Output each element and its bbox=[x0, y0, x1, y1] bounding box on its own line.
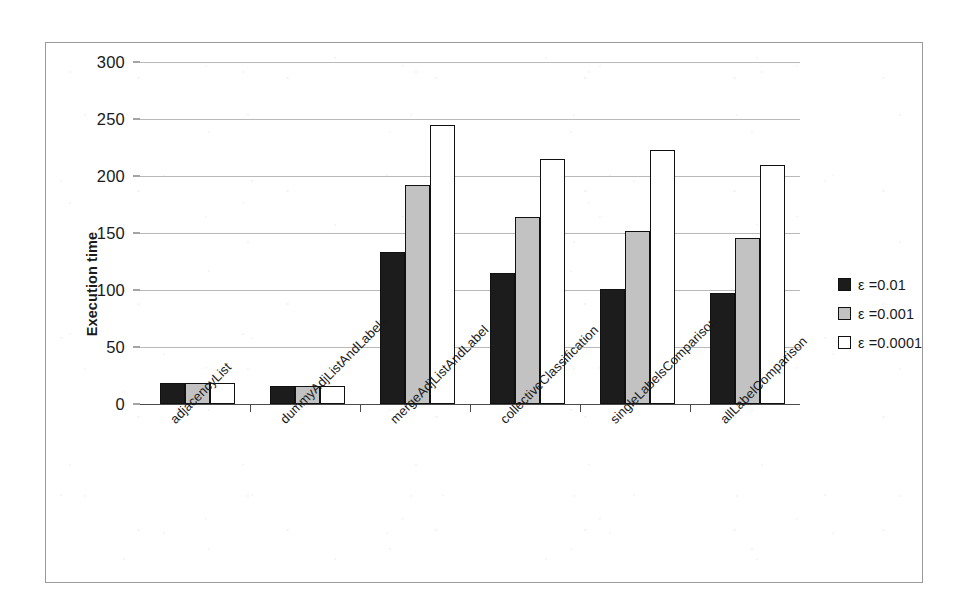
bar[interactable] bbox=[600, 289, 625, 404]
y-axis-tick-label: 300 bbox=[30, 54, 125, 71]
x-axis-tick-mark bbox=[360, 404, 361, 412]
x-axis-tick-mark bbox=[250, 404, 251, 412]
bar-group bbox=[380, 62, 455, 404]
bar[interactable] bbox=[405, 185, 430, 404]
x-axis-line bbox=[140, 404, 800, 405]
bar-group bbox=[270, 62, 345, 404]
gridline bbox=[140, 176, 800, 177]
x-axis-tick-mark bbox=[470, 404, 471, 412]
legend-item[interactable]: ε =0.0001 bbox=[838, 328, 958, 357]
legend-label: ε =0.001 bbox=[858, 306, 914, 322]
legend-swatch-icon bbox=[838, 278, 851, 291]
y-axis-tick-label: 100 bbox=[30, 282, 125, 299]
x-axis-tick-mark bbox=[690, 404, 691, 412]
y-axis-tick-mark bbox=[133, 176, 140, 177]
bar-group bbox=[600, 62, 675, 404]
y-axis-tick-label: 200 bbox=[30, 168, 125, 185]
y-axis-tick-mark bbox=[133, 62, 140, 63]
legend-item[interactable]: ε =0.001 bbox=[838, 299, 958, 328]
legend-swatch-icon bbox=[838, 336, 851, 349]
bar-group bbox=[160, 62, 235, 404]
gridline bbox=[140, 119, 800, 120]
y-axis-tick-mark bbox=[133, 290, 140, 291]
gridline bbox=[140, 233, 800, 234]
y-axis-tick-label: 50 bbox=[30, 339, 125, 356]
bar[interactable] bbox=[710, 293, 735, 404]
x-axis-tick-mark bbox=[580, 404, 581, 412]
y-axis-tick-label: 0 bbox=[30, 396, 125, 413]
y-axis-tick-mark bbox=[133, 404, 140, 405]
gridline bbox=[140, 62, 800, 63]
legend-swatch-icon bbox=[838, 307, 851, 320]
chart-legend: ε =0.01ε =0.001ε =0.0001 bbox=[838, 270, 958, 357]
bar[interactable] bbox=[490, 273, 515, 404]
legend-label: ε =0.01 bbox=[858, 277, 906, 293]
y-axis-tick-label: 250 bbox=[30, 111, 125, 128]
y-axis-tick-mark bbox=[133, 119, 140, 120]
bar-group bbox=[710, 62, 785, 404]
legend-label: ε =0.0001 bbox=[858, 335, 922, 351]
gridline bbox=[140, 290, 800, 291]
y-axis-tick-label: 150 bbox=[30, 225, 125, 242]
y-axis-tick-mark bbox=[133, 233, 140, 234]
bar-group bbox=[490, 62, 565, 404]
legend-item[interactable]: ε =0.01 bbox=[838, 270, 958, 299]
y-axis-tick-mark bbox=[133, 347, 140, 348]
